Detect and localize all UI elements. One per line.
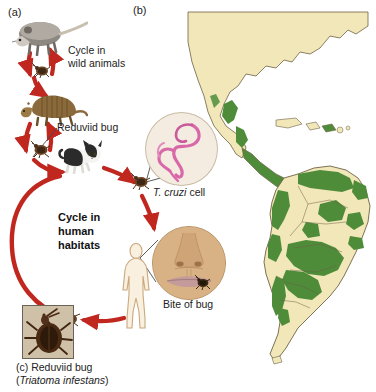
wild-cycle-line2: wild animals (68, 57, 125, 70)
human-cycle-line3: habitats (58, 239, 100, 253)
tcruzi-species-name: T. cruzi (153, 186, 186, 198)
human-illustration (116, 242, 156, 332)
reduviid-bug-sprite-1 (32, 62, 52, 78)
panel-c-caption-line2: (Triatoma infestans) (16, 374, 109, 387)
bite-inset (152, 226, 226, 300)
face-with-bug-drawing (153, 227, 225, 299)
cat-illustration (58, 138, 106, 174)
map-caribbean (276, 118, 350, 133)
figure-chagas-cycle: (a) (b) (0, 0, 376, 392)
panel-c-caption: (c) Reduviid bug (Triatoma infestans) (16, 361, 109, 387)
wild-cycle-label: Cycle in wild animals (68, 44, 125, 70)
tcruzi-caption-rest: cell (186, 186, 205, 198)
bite-caption: Bite of bug (163, 298, 213, 311)
distribution-map (180, 8, 376, 370)
panel-c-caption-line1: (c) Reduviid bug (16, 361, 109, 374)
human-cycle-line1: Cycle in (58, 211, 100, 225)
human-cycle-label: Cycle in human habitats (58, 211, 100, 252)
wild-cycle-line1: Cycle in (68, 44, 125, 57)
paren-close: ) (105, 374, 109, 386)
reduviid-bug-photo (22, 305, 74, 359)
reduviid-bug-label: Reduviid bug (57, 121, 118, 134)
species-binomial: Triatoma infestans (20, 374, 106, 386)
reduviid-bug-sprite-3 (130, 172, 152, 190)
tcruzi-inset (145, 112, 218, 186)
triatoma-infestans-photo (23, 306, 73, 358)
americas-map-svg (180, 8, 376, 370)
human-cycle-line2: human (58, 225, 100, 239)
reduviid-bug-sprite-2 (30, 140, 52, 158)
tcruzi-caption: T. cruzi cell (153, 186, 205, 199)
map-south-america (264, 166, 370, 364)
tcruzi-parasite-drawing (146, 113, 217, 185)
